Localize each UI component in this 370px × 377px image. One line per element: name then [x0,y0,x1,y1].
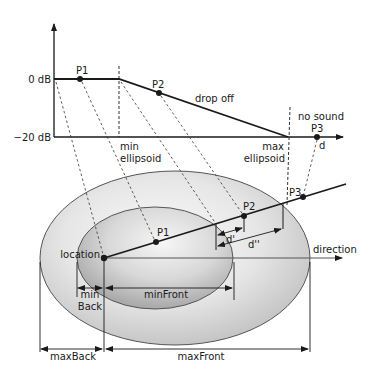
d-double-prime-label: d'' [248,239,260,250]
ellipse-p1-label: P1 [157,227,169,238]
sound-attenuation-diagram: 0 dB −20 dB P1 P2 P3 drop off no sound m… [0,0,370,377]
ellipse-p2-label: P2 [243,201,255,212]
min-front-label: minFront [144,289,188,300]
graph-p3-label: P3 [311,123,323,134]
max-back-label: maxBack [50,351,96,362]
location-label: location [60,249,100,260]
max-ellipsoid-label-2: ellipsoid [244,153,285,164]
y-label-minus20db: −20 dB [14,132,52,143]
drop-off-label: drop off [195,93,235,104]
min-back-label-1: min [81,289,100,300]
graph-p2-label: P2 [152,79,164,90]
graph-p2-dot [156,90,162,96]
y-label-0db: 0 dB [28,74,51,85]
ellipse-p1-dot [153,239,159,245]
max-front-label: maxFront [177,351,224,362]
min-ellipsoid-label-2: ellipsoid [120,153,161,164]
d-prime-label: d' [226,234,235,245]
max-ellipsoid-label-1: max [262,141,284,152]
no-sound-label: no sound [298,111,344,122]
direction-label: direction [313,244,357,255]
min-ellipsoid-label-1: min [120,141,139,152]
x-axis-d-label: d [319,140,325,151]
projection-p3 [303,140,317,197]
graph-p1-dot [77,76,83,82]
ellipse-p3-label: P3 [289,187,301,198]
graph-p1-label: P1 [76,65,88,76]
attenuation-curve [54,79,288,137]
min-back-label-2: Back [78,301,102,312]
